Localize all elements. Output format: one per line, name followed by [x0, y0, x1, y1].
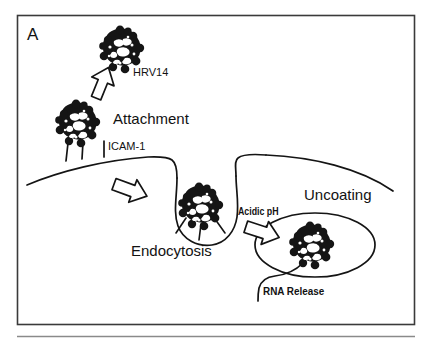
label-hrv14: HRV14: [133, 67, 168, 78]
label-rna-release: RNA Release: [263, 286, 324, 297]
pathway-diagram-canvas: [0, 0, 432, 339]
label-attachment: Attachment: [113, 111, 189, 126]
label-icam1: ICAM-1: [108, 141, 145, 152]
figure-border: [18, 16, 415, 325]
label-acidic-ph: Acidic pH: [238, 207, 279, 217]
figure-panel-a: A HRV14 Attachment ICAM-1 Endocytosis Ac…: [0, 0, 432, 339]
panel-label-a: A: [27, 26, 39, 43]
label-uncoating: Uncoating: [304, 187, 372, 202]
label-endocytosis: Endocytosis: [131, 243, 212, 258]
